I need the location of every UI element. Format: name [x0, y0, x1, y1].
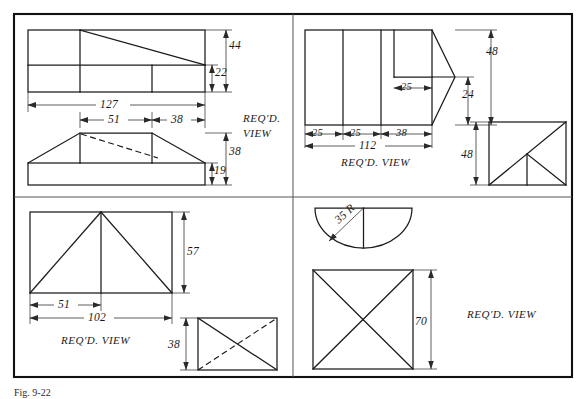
bl-dim-102-label: 102: [88, 311, 106, 323]
tl-dim-44-label: 44: [229, 39, 241, 51]
drawing-sheet: 44 22 127 51 38 38: [0, 0, 586, 399]
tr-dim-seg2-label: 25: [350, 127, 361, 138]
bl-dim-38-label: 38: [167, 338, 180, 350]
engineering-drawing-canvas: 44 22 127 51 38 38: [0, 0, 586, 399]
tr-dim-side48-label: 48: [461, 148, 473, 160]
tr-dim-48-label: 48: [486, 45, 498, 57]
tl-view-label-line2: VIEW: [243, 127, 272, 139]
tl-dim-19-label: 19: [214, 164, 226, 176]
tr-dim-seg1-label: 25: [312, 127, 323, 138]
br-view-label: REQ'D. VIEW: [466, 308, 536, 320]
tl-dim-22-label: 22: [215, 66, 227, 78]
tr-dim-seg3-label: 38: [395, 127, 407, 138]
bl-dim-51-label: 51: [58, 298, 70, 310]
tl-dim-h38-label: 38: [228, 145, 241, 157]
tl-dim-127-label: 127: [100, 98, 119, 110]
tr-dim-24-label: 24: [462, 88, 474, 100]
tr-dim-112-label: 112: [359, 139, 376, 151]
tl-view-label-line1: REQ'D.: [242, 112, 280, 124]
figure-caption: Fig. 9-22: [14, 387, 51, 398]
br-dim-70-label: 70: [415, 315, 427, 327]
tr-view-label: REQ'D. VIEW: [340, 156, 410, 168]
tl-dim-38-label: 38: [170, 113, 183, 125]
tl-dim-51-label: 51: [108, 113, 120, 125]
tr-dim-notch25-label: 25: [401, 81, 412, 92]
bl-dim-57-label: 57: [187, 245, 200, 257]
bl-view-label: REQ'D. VIEW: [60, 334, 130, 346]
